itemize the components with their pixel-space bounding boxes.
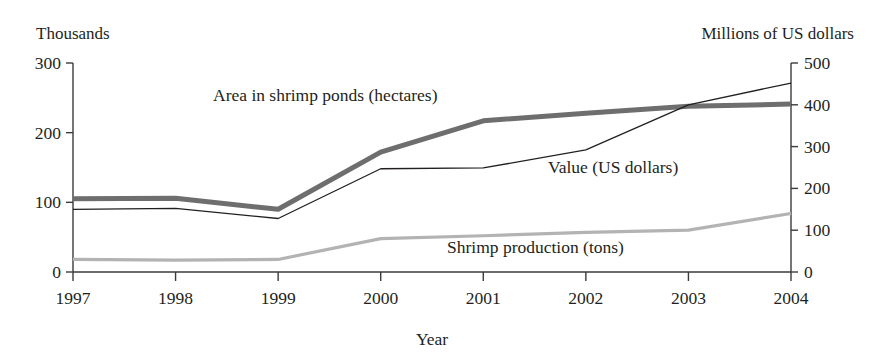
series-line-shrimp-production-tons bbox=[73, 213, 791, 260]
x-axis-tick-label: 2003 bbox=[671, 288, 706, 308]
data-series-group bbox=[73, 83, 791, 260]
left-axis-tick-label: 0 bbox=[52, 262, 61, 282]
x-axis-tick-label: 1997 bbox=[56, 288, 91, 308]
right-axis: 0100200300400500 bbox=[791, 53, 831, 282]
x-axis-tick-label: 2002 bbox=[568, 288, 603, 308]
right-axis-tick-label: 400 bbox=[804, 95, 831, 115]
x-axis: 19971998199920002001200220032004 bbox=[56, 272, 809, 308]
x-axis-tick-label: 2000 bbox=[363, 288, 398, 308]
right-axis-tick-label: 200 bbox=[804, 178, 831, 198]
series-label: Area in shrimp ponds (hectares) bbox=[213, 85, 438, 105]
right-axis-tick-label: 100 bbox=[804, 220, 831, 240]
right-axis-tick-label: 0 bbox=[804, 262, 813, 282]
x-axis-title: Year bbox=[416, 329, 448, 349]
series-label: Value (US dollars) bbox=[548, 157, 678, 177]
right-axis-tick-label: 500 bbox=[804, 53, 831, 73]
x-axis-tick-label: 1998 bbox=[158, 288, 193, 308]
left-axis-tick-label: 200 bbox=[35, 123, 62, 143]
line-chart-plot: 0100200300 0100200300400500 199719981999… bbox=[0, 0, 870, 362]
chart-figure: Thousands Millions of US dollars 0100200… bbox=[0, 0, 870, 362]
right-axis-tick-label: 300 bbox=[804, 137, 831, 157]
left-axis-tick-label: 100 bbox=[35, 192, 62, 212]
x-axis-tick-label: 1999 bbox=[261, 288, 296, 308]
x-axis-tick-label: 2001 bbox=[466, 288, 501, 308]
left-axis-tick-label: 300 bbox=[35, 53, 62, 73]
series-line-area-in-shrimp-ponds-hectares bbox=[73, 104, 791, 209]
series-label: Shrimp production (tons) bbox=[447, 237, 624, 257]
x-axis-tick-label: 2004 bbox=[774, 288, 809, 308]
left-axis: 0100200300 bbox=[35, 53, 73, 282]
